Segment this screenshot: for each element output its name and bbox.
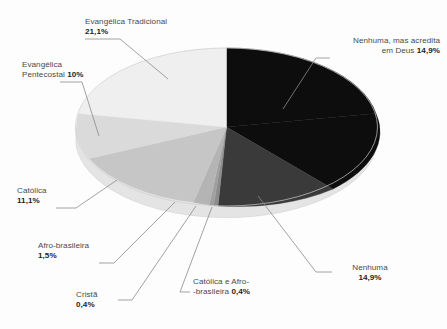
pie-label-value-catolica: 11,1%: [17, 196, 40, 205]
pie-label-crista: Cristã 0,4%: [76, 290, 97, 311]
pie-label-value-evangelica-pentecostal: 10%: [67, 70, 83, 79]
pie-label-name-catolica: Católica: [17, 186, 47, 195]
pie-label-value-evangelica-tradicional: 21,1%: [85, 27, 108, 36]
pie-label-afro-brasileira: Afro-brasileira 1,5%: [38, 241, 89, 262]
pie-label-nenhuma: Nenhuma 14,9%: [334, 263, 406, 284]
pie-label-name-evangelica-pentecostal-line2: Pentecostal: [22, 70, 65, 79]
pie-label-catolica: Católica 11,1%: [17, 186, 47, 207]
pie-label-name-catolica-e-afro-brasileira-line1: Católica e Afro-: [193, 277, 249, 286]
pie-label-value-catolica-e-afro-brasileira: 0,4%: [231, 287, 250, 296]
pie-label-name-crista: Cristã: [76, 290, 97, 299]
pie-slice-evangelica-tradicional: [79, 48, 227, 127]
pie-label-name-catolica-e-afro-brasileira-line2: -brasileira: [193, 287, 229, 296]
pie-label-name-nenhuma-mas-acredita-em-deus-line1: Nenhuma, mas acredita: [353, 36, 440, 45]
pie-label-name-nenhuma-mas-acredita-em-deus-line2: em Deus: [382, 46, 415, 55]
pie-label-nenhuma-mas-acredita-em-deus: Nenhuma, mas acredita em Deus 14,9%: [328, 36, 440, 57]
pie-label-name-evangelica-tradicional: Evangélica Tradicional: [85, 17, 167, 26]
pie-label-name-evangelica-pentecostal-line1: Evangélica: [22, 60, 62, 69]
pie-label-name-afro-brasileira: Afro-brasileira: [38, 241, 89, 250]
pie-label-evangelica-tradicional: Evangélica Tradicional 21,1%: [85, 17, 167, 38]
pie-label-value-afro-brasileira: 1,5%: [38, 251, 57, 260]
pie-label-value-nenhuma-mas-acredita-em-deus: 14,9%: [417, 46, 440, 55]
pie-label-evangelica-pentecostal: Evangélica Pentecostal 10%: [22, 60, 84, 81]
pie-label-value-crista: 0,4%: [76, 300, 95, 309]
pie-label-name-nenhuma: Nenhuma: [352, 263, 387, 272]
pie-label-value-nenhuma: 14,9%: [358, 273, 381, 282]
pie-label-catolica-e-afro-brasileira: Católica e Afro- -brasileira 0,4%: [193, 277, 250, 298]
pie-chart-figure: Evangélica Tradicional 21,1% Nenhuma, ma…: [0, 0, 447, 329]
pie-slice-nenhuma-mas-acredita-em-deus: [227, 48, 377, 127]
